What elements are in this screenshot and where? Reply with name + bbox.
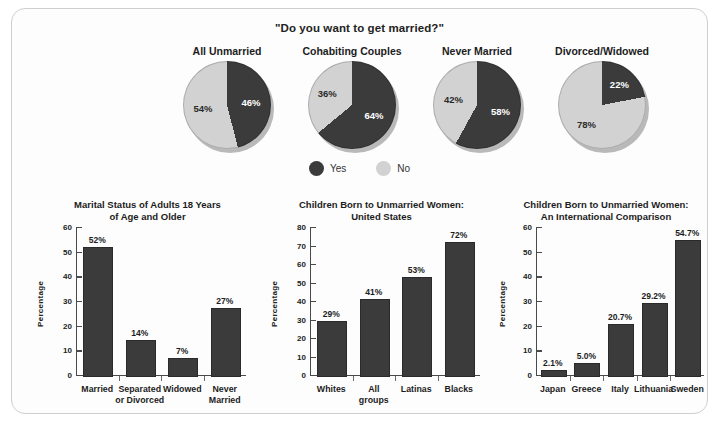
chart-title-line: Children Born to Unmarried Women: bbox=[264, 199, 499, 211]
y-axis-tick bbox=[77, 276, 82, 277]
y-axis-tick-label: 80 bbox=[284, 223, 306, 232]
bar bbox=[317, 321, 347, 377]
pie-slices bbox=[558, 61, 646, 149]
pie-slice-label-yes: 58% bbox=[491, 106, 510, 117]
bar-value-label: 27% bbox=[216, 296, 233, 306]
legend-item-yes: Yes bbox=[309, 161, 346, 176]
pie-graphic: 46%54% bbox=[183, 61, 271, 149]
bar-chart-2: Children Born to Unmarried Women:United … bbox=[264, 199, 499, 414]
y-axis-tick bbox=[311, 264, 316, 265]
pie-slices bbox=[308, 61, 396, 149]
y-axis-tick-label: 20 bbox=[284, 334, 306, 343]
x-axis-tick bbox=[395, 376, 396, 381]
chart-title-line: Children Born to Unmarried Women: bbox=[492, 199, 719, 211]
x-axis-tick bbox=[353, 376, 354, 381]
y-axis-tick bbox=[311, 283, 316, 284]
bar bbox=[126, 340, 156, 377]
chart-title-line: Marital Status of Adults 18 Years bbox=[30, 199, 265, 211]
bar-value-label: 14% bbox=[131, 328, 148, 338]
y-axis-tick-label: 0 bbox=[50, 371, 72, 380]
legend-swatch-icon bbox=[376, 161, 391, 176]
legend-label: No bbox=[397, 163, 410, 174]
bar bbox=[574, 363, 600, 377]
bar bbox=[541, 370, 567, 377]
legend-item-no: No bbox=[376, 161, 410, 176]
bar-value-label: 20.7% bbox=[608, 312, 632, 322]
y-axis-tick-label: 60 bbox=[510, 223, 532, 232]
y-axis-tick-label: 0 bbox=[284, 371, 306, 380]
y-axis-tick bbox=[537, 326, 542, 327]
bar-value-label: 29% bbox=[323, 309, 340, 319]
bar bbox=[211, 308, 241, 377]
pie-chart-1: All Unmarried46%54% bbox=[162, 45, 292, 149]
y-axis-tick-label: 40 bbox=[510, 272, 532, 281]
plot-area: Percentage010203040506052%Married14%Sepa… bbox=[30, 227, 265, 420]
bar bbox=[168, 358, 198, 377]
bar-chart-1: Marital Status of Adults 18 Yearsof Age … bbox=[30, 199, 265, 414]
y-axis-tick-label: 40 bbox=[284, 297, 306, 306]
y-axis-tick-label: 30 bbox=[284, 315, 306, 324]
chart-title: Children Born to Unmarried Women:United … bbox=[264, 199, 499, 225]
pie-graphic: 64%36% bbox=[308, 61, 396, 149]
bar-value-label: 53% bbox=[408, 265, 425, 275]
bar bbox=[642, 303, 668, 377]
y-axis-tick-label: 50 bbox=[284, 278, 306, 287]
legend-label: Yes bbox=[330, 163, 346, 174]
x-axis-tick bbox=[438, 376, 439, 381]
pie-chart-3: Never Married58%42% bbox=[412, 45, 542, 149]
pie-slice-label-no: 54% bbox=[193, 103, 212, 114]
y-axis-tick-label: 30 bbox=[50, 297, 72, 306]
bar bbox=[445, 242, 475, 377]
x-axis-category-label: Blacks bbox=[431, 384, 488, 395]
bar bbox=[83, 247, 113, 377]
pie-heading: All Unmarried bbox=[162, 45, 292, 57]
bar bbox=[675, 240, 701, 377]
pie-graphic: 58%42% bbox=[433, 61, 521, 149]
y-axis-tick bbox=[311, 227, 316, 228]
y-axis-tick bbox=[311, 375, 316, 376]
y-axis-tick-label: 70 bbox=[284, 241, 306, 250]
pie-slice-label-yes: 22% bbox=[610, 78, 629, 89]
x-axis-tick bbox=[603, 376, 604, 381]
x-axis-category-label: Never Married bbox=[197, 384, 254, 405]
pie-slice-label-no: 78% bbox=[577, 118, 596, 129]
pie-heading: Divorced/Widowed bbox=[537, 45, 667, 57]
y-axis-tick bbox=[311, 301, 316, 302]
y-axis-tick bbox=[77, 252, 82, 253]
x-axis-tick bbox=[570, 376, 571, 381]
y-axis-label: Percentage bbox=[498, 281, 507, 327]
y-axis-tick bbox=[537, 227, 542, 228]
chart-title-line: United States bbox=[264, 211, 499, 223]
y-axis-tick bbox=[77, 301, 82, 302]
y-axis-tick bbox=[77, 375, 82, 376]
pie-slice-label-yes: 64% bbox=[364, 110, 383, 121]
bar-value-label: 2.1% bbox=[543, 358, 562, 368]
legend-swatch-icon bbox=[309, 161, 324, 176]
y-axis-tick bbox=[77, 326, 82, 327]
pie-chart-4: Divorced/Widowed22%78% bbox=[537, 45, 667, 149]
y-axis-label: Percentage bbox=[270, 281, 279, 327]
x-axis-tick bbox=[204, 376, 205, 381]
pie-slice-label-no: 36% bbox=[318, 88, 337, 99]
bar-value-label: 29.2% bbox=[642, 291, 666, 301]
bar bbox=[360, 299, 390, 377]
x-axis-tick bbox=[637, 376, 638, 381]
x-axis-tick bbox=[161, 376, 162, 381]
pie-graphic: 22%78% bbox=[558, 61, 646, 149]
plot-area: Percentage01020304050602.1%Japan5.0%Gree… bbox=[492, 227, 719, 420]
chart-title: Marital Status of Adults 18 Yearsof Age … bbox=[30, 199, 265, 225]
y-axis-tick bbox=[77, 227, 82, 228]
y-axis-tick bbox=[311, 338, 316, 339]
y-axis-label: Percentage bbox=[36, 281, 45, 327]
pie-slice-label-no: 42% bbox=[444, 93, 463, 104]
y-axis-tick bbox=[537, 301, 542, 302]
bar-value-label: 72% bbox=[450, 230, 467, 240]
pie-heading: Never Married bbox=[412, 45, 542, 57]
pie-heading: Cohabiting Couples bbox=[287, 45, 417, 57]
y-axis-tick-label: 10 bbox=[284, 352, 306, 361]
chart-title-line: An International Comparison bbox=[492, 211, 719, 223]
bar-value-label: 41% bbox=[365, 287, 382, 297]
chart-title: Children Born to Unmarried Women:An Inte… bbox=[492, 199, 719, 225]
pie-chart-2: Cohabiting Couples64%36% bbox=[287, 45, 417, 149]
y-axis-tick bbox=[77, 350, 82, 351]
